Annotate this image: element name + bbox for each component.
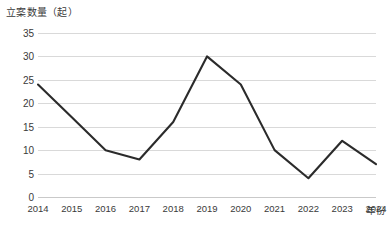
y-tick-label-20: 20: [23, 98, 34, 109]
y-tick-label-35: 35: [23, 28, 34, 39]
x-tick-label-2019: 2019: [196, 203, 217, 214]
x-axis-tick-labels: 2014201520162017201820192020202120222023…: [38, 203, 376, 219]
y-tick-label-30: 30: [23, 51, 34, 62]
gridline-0: [38, 197, 376, 198]
y-tick-label-0: 0: [28, 192, 34, 203]
x-axis-title: 年份: [366, 203, 386, 217]
x-tick-label-2014: 2014: [27, 203, 48, 214]
x-tick-label-2018: 2018: [163, 203, 184, 214]
x-tick-label-2020: 2020: [230, 203, 251, 214]
x-tick-label-2023: 2023: [332, 203, 353, 214]
x-tick-label-2015: 2015: [61, 203, 82, 214]
y-axis-tick-labels: 05101520253035: [0, 33, 34, 197]
series-line-polyline: [38, 56, 376, 178]
y-tick-label-10: 10: [23, 145, 34, 156]
data-line-series: [38, 33, 376, 197]
line-chart: 立案数量（起） 05101520253035 20142015201620172…: [0, 0, 391, 233]
y-tick-label-5: 5: [28, 168, 34, 179]
y-axis-title: 立案数量（起）: [6, 4, 78, 19]
x-tick-label-2022: 2022: [298, 203, 319, 214]
x-tick-label-2021: 2021: [264, 203, 285, 214]
y-tick-label-25: 25: [23, 74, 34, 85]
plot-area: [38, 33, 376, 197]
y-tick-label-15: 15: [23, 121, 34, 132]
x-tick-label-2016: 2016: [95, 203, 116, 214]
x-tick-label-2017: 2017: [129, 203, 150, 214]
